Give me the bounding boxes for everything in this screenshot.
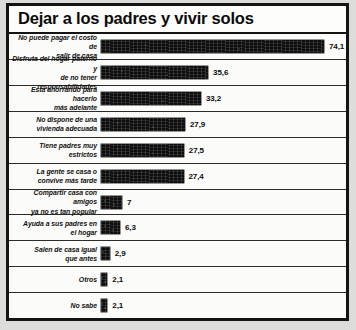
- bar-value-label: 27,5: [189, 146, 204, 155]
- bar-category-label-line1: No dispone de una: [9, 115, 97, 124]
- bar-track: 33,2: [101, 86, 346, 111]
- bar: [101, 92, 201, 105]
- bar-track: 2,1: [101, 293, 346, 318]
- bar-track: 74,1: [101, 34, 346, 59]
- table-row: Salen de casa igualque antes2,9: [9, 241, 346, 267]
- bar-category-label-line1: Está ahorrando para hacerlo: [9, 85, 97, 103]
- bar-value-label: 2,9: [115, 249, 126, 258]
- bar-value-label: 27,4: [189, 172, 204, 181]
- bar-category-label: Tiene padres muyestrictos: [9, 141, 101, 159]
- table-row: Otros2,1: [9, 267, 346, 293]
- bar-value-label: 2,1: [112, 301, 123, 310]
- bar: [101, 221, 120, 234]
- bar-category-label-line2: el hogar: [9, 228, 97, 237]
- chart-title-box: Dejar a los padres y vivir solos: [9, 6, 346, 34]
- bar-track: 2,1: [101, 267, 346, 292]
- bar-category-label: No dispone de unavivienda adecuada: [9, 115, 101, 133]
- bar-category-label-line2: más adelante: [9, 103, 97, 112]
- bar-rows: No puede pagar el costo desalir de casa7…: [9, 34, 346, 318]
- bar-category-label: Salen de casa igualque antes: [9, 245, 101, 263]
- bar-track: 27,9: [101, 112, 346, 137]
- bar: [101, 273, 107, 286]
- bar-category-label: Compartir casa con amigosya no es tan po…: [9, 188, 101, 215]
- table-row: No dispone de unavivienda adecuada27,9: [9, 112, 346, 138]
- bar-value-label: 7: [127, 198, 131, 207]
- bar-track: 35,6: [101, 60, 346, 85]
- bar-category-label-line2: ya no es tan popular: [9, 207, 97, 216]
- bar-category-label-line2: que antes: [9, 254, 97, 263]
- bar-category-label-line1: Tiene padres muy: [9, 141, 97, 150]
- table-row: No sabe2,1: [9, 293, 346, 318]
- bar-value-label: 33,2: [206, 94, 221, 103]
- bar: [101, 170, 184, 183]
- bar-category-label-line1: No puede pagar el costo de: [9, 33, 97, 51]
- table-row: Está ahorrando para hacerlomás adelante3…: [9, 86, 346, 112]
- bar-value-label: 35,6: [213, 68, 228, 77]
- bar-category-label-line1: Ayuda a sus padres en: [9, 219, 97, 228]
- bar-category-label: Está ahorrando para hacerlomás adelante: [9, 85, 101, 112]
- table-row: Ayuda a sus padres enel hogar6,3: [9, 215, 346, 241]
- bar-track: 27,5: [101, 138, 346, 163]
- chart-page: Dejar a los padres y vivir solos No pued…: [0, 0, 356, 330]
- bar: [101, 144, 184, 157]
- bar-value-label: 74,1: [329, 42, 344, 51]
- bar-track: 7: [101, 190, 346, 215]
- chart-frame: Dejar a los padres y vivir solos No pued…: [6, 3, 349, 321]
- bar-category-label-line1: Otros: [9, 275, 97, 284]
- page-title: Dejar a los padres y vivir solos: [18, 10, 346, 27]
- bar-category-label-line2: vivienda adecuada: [9, 124, 97, 133]
- bar-category-label: Otros: [9, 275, 101, 284]
- bar-category-label-line1: No sabe: [9, 301, 97, 310]
- bar: [101, 196, 122, 209]
- bar-category-label: La gente se casa oconvive más tarde: [9, 167, 101, 185]
- bar-category-label: No sabe: [9, 301, 101, 310]
- bar-category-label-line1: Disfruta del hogar paterno y: [9, 54, 97, 72]
- bar-value-label: 2,1: [112, 275, 123, 284]
- bar-category-label-line2: estrictos: [9, 150, 97, 159]
- bar-category-label-line1: La gente se casa o: [9, 167, 97, 176]
- bar: [101, 66, 208, 79]
- bar: [101, 118, 185, 131]
- bar-category-label-line1: Salen de casa igual: [9, 245, 97, 254]
- bar: [101, 40, 324, 53]
- table-row: Disfruta del hogar paterno yde no tener …: [9, 60, 346, 86]
- table-row: Tiene padres muyestrictos27,5: [9, 138, 346, 164]
- bar-category-label-line1: Compartir casa con amigos: [9, 188, 97, 206]
- bar: [101, 299, 107, 312]
- bar-track: 6,3: [101, 215, 346, 240]
- table-row: La gente se casa oconvive más tarde27,4: [9, 164, 346, 190]
- bar-value-label: 27,9: [190, 120, 205, 129]
- bar-category-label-line2: convive más tarde: [9, 176, 97, 185]
- bar: [101, 247, 110, 260]
- table-row: Compartir casa con amigosya no es tan po…: [9, 190, 346, 216]
- bar-value-label: 6,3: [125, 223, 136, 232]
- bar-track: 2,9: [101, 241, 346, 266]
- bar-track: 27,4: [101, 164, 346, 189]
- bar-category-label: Ayuda a sus padres enel hogar: [9, 219, 101, 237]
